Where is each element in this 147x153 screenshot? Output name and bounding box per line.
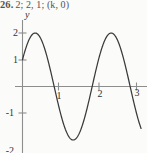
y-tick-label-minus-1: -1 xyxy=(0,108,14,118)
y-tick-label-1: 1 xyxy=(4,55,18,65)
x-tick-label-3: 3 xyxy=(131,88,143,98)
x-tick-label-1: 1 xyxy=(53,91,65,101)
y-tick-label-2: 2 xyxy=(4,28,18,38)
y-axis-label: y xyxy=(25,10,29,20)
y-tick-label-minus-2: -2 xyxy=(0,146,14,153)
graph-figure: y 2 1 -1 -2 1 2 3 xyxy=(0,0,147,153)
plot-canvas xyxy=(0,0,147,153)
x-tick-label-2: 2 xyxy=(94,89,106,99)
